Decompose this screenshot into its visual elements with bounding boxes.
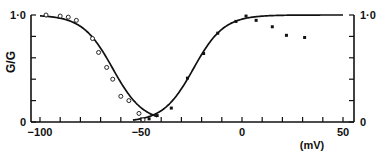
- open-circle-point: [74, 18, 78, 22]
- y-axis-title: G/G: [4, 51, 18, 73]
- filled-point: [186, 77, 189, 80]
- inactivation-fit-curve: [40, 16, 157, 117]
- x-axis-title: (mV): [300, 139, 325, 151]
- filled-point: [234, 20, 237, 23]
- open-circle-point: [105, 65, 109, 69]
- open-circle-point: [91, 37, 95, 41]
- filled-point: [271, 25, 274, 28]
- x-tick-label: −50: [132, 126, 151, 138]
- x-tick-label: −100: [28, 126, 53, 138]
- open-circle-point: [141, 118, 145, 122]
- y-tick-label-left: 1·0: [10, 9, 26, 21]
- open-circle-point: [44, 13, 48, 17]
- open-circle-point: [66, 15, 70, 19]
- open-circle-point: [97, 50, 101, 54]
- y-tick-label-right: 1·0: [360, 9, 376, 21]
- axes: [31, 15, 354, 122]
- open-circle-point: [127, 99, 131, 103]
- filled-point: [303, 36, 306, 39]
- open-circle-point: [119, 94, 123, 98]
- x-tick-label: 0: [239, 126, 245, 138]
- y-tick-label-left: 0: [20, 116, 26, 128]
- open-circle-point: [58, 14, 62, 18]
- fit-curves: [40, 15, 343, 120]
- activation-fit-curve: [133, 15, 343, 120]
- filled-point: [156, 114, 159, 117]
- filled-point: [255, 19, 258, 22]
- conductance-voltage-chart: −100−500501·001·00G/G(mV): [0, 0, 379, 151]
- filled-point: [148, 117, 151, 120]
- filled-point: [285, 34, 288, 37]
- x-tick-label: 50: [337, 126, 349, 138]
- filled-point: [202, 52, 205, 55]
- filled-point: [216, 32, 219, 35]
- y-tick-label-right: 0: [360, 116, 366, 128]
- filled-point: [170, 107, 173, 110]
- filled-point: [245, 15, 248, 18]
- axis-labels: −100−500501·001·00G/G(mV): [4, 9, 376, 151]
- open-circle-point: [137, 111, 141, 115]
- open-circle-point: [111, 77, 115, 81]
